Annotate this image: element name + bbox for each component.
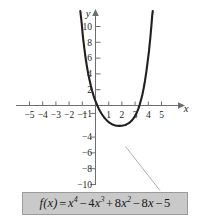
x-axis-label: x <box>183 103 189 114</box>
x-tick-label: −5 <box>24 110 34 120</box>
y-tick-label: 6 <box>87 53 92 63</box>
equation-op1: − <box>78 197 88 211</box>
equation-term4-base: x <box>148 197 154 211</box>
equation-op3: − <box>131 197 141 211</box>
y-axis-label: y <box>85 8 91 19</box>
callout-leader-line <box>126 147 161 191</box>
y-tick-label: −1 <box>82 109 92 119</box>
equation-op4: − <box>154 197 164 211</box>
x-tick-label: −3 <box>51 110 61 120</box>
x-tick-label: 1 <box>106 110 111 120</box>
x-tick-label: 2 <box>120 110 125 120</box>
y-tick-label: −8 <box>82 164 92 174</box>
y-tick-label: −6 <box>82 148 92 158</box>
function-graph-figure: −5 −4 −3 −2 −1 1 2 3 4 5 10 8 6 4 2 −1 −… <box>0 0 197 219</box>
equation-equals: = <box>58 197 68 211</box>
equation-term5: 5 <box>164 197 170 211</box>
x-tick-labels: −5 −4 −3 −2 −1 1 2 3 4 5 <box>24 110 164 120</box>
equation-text: f(x)=x4−4x3+8x2−8x−5 <box>40 195 171 211</box>
equation-term2-exponent: 3 <box>100 195 104 204</box>
equation-fx: f(x) <box>40 197 58 211</box>
y-tick-label: −10 <box>77 180 92 190</box>
x-tick-label: −2 <box>64 110 74 120</box>
graph-canvas: −5 −4 −3 −2 −1 1 2 3 4 5 10 8 6 4 2 −1 −… <box>0 0 197 219</box>
x-tick-label: −4 <box>38 110 48 120</box>
y-tick-label: 8 <box>87 38 92 48</box>
y-tick-label: 10 <box>83 22 93 32</box>
x-axis <box>16 102 185 109</box>
x-tick-label: 5 <box>159 110 164 120</box>
x-tick-label: 4 <box>146 110 151 120</box>
equation-op2: + <box>105 197 115 211</box>
equation-caption-box: f(x)=x4−4x3+8x2−8x−5 <box>22 192 188 215</box>
y-tick-label: −4 <box>82 132 92 142</box>
